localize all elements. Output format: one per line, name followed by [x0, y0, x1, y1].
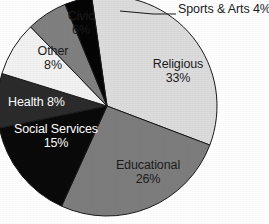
slice-label-other-name: Other [38, 44, 69, 58]
slice-label-social-services: Social Services 15% [4, 123, 108, 150]
pie-chart: Religious 33% Educational 26% Social Ser… [0, 0, 269, 224]
slice-label-civic-percent: 6% [57, 24, 105, 38]
slice-label-health-text: Health 8% [8, 95, 65, 109]
slice-label-educational-percent: 26% [101, 173, 195, 187]
slice-label-civic: Civic 6% [57, 10, 105, 37]
slice-label-health: Health 8% [8, 96, 84, 110]
slice-label-sports-arts: Sports & Arts 4% [178, 3, 269, 17]
slice-label-educational-name: Educational [116, 158, 180, 172]
slice-label-educational: Educational 26% [101, 159, 195, 186]
slice-label-social-services-percent: 15% [4, 137, 108, 151]
slice-label-religious-name: Religious [153, 57, 204, 71]
slice-label-religious-percent: 33% [143, 72, 213, 86]
slice-label-other: Other 8% [26, 45, 80, 72]
slice-label-religious: Religious 33% [143, 58, 213, 85]
slice-label-other-percent: 8% [26, 59, 80, 73]
slice-label-sports-arts-text: Sports & Arts 4% [178, 2, 269, 16]
pie-chart-canvas [0, 0, 269, 224]
slice-label-social-services-name: Social Services [14, 122, 98, 136]
slice-label-civic-name: Civic [68, 9, 95, 23]
